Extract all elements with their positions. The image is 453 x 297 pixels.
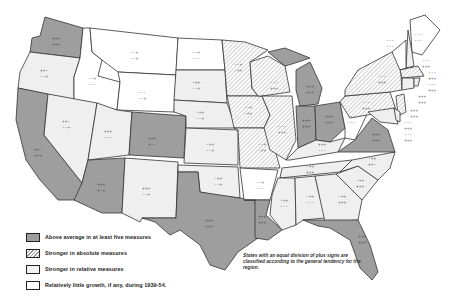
svg-text:-++: -++ <box>356 178 364 183</box>
svg-text:+++: +++ <box>306 84 314 89</box>
svg-text:---: --- <box>428 82 436 87</box>
svg-text:+++: +++ <box>148 136 156 141</box>
svg-text:+++: +++ <box>404 126 412 131</box>
swatch-above-icon <box>26 233 40 242</box>
svg-text:+--: +-- <box>148 142 156 147</box>
svg-text:---: --- <box>378 74 386 79</box>
svg-text:+++: +++ <box>428 76 436 81</box>
legend-label: Stronger in relative measures <box>45 266 124 272</box>
svg-text:+++: +++ <box>418 100 426 105</box>
svg-text:+++: +++ <box>404 138 412 143</box>
svg-text:--+: --+ <box>258 142 266 147</box>
svg-text:++-: ++- <box>40 68 48 73</box>
svg-text:+++: +++ <box>410 114 418 119</box>
svg-text:++-: ++- <box>62 119 70 124</box>
svg-text:---: --- <box>386 44 394 49</box>
svg-text:+++: +++ <box>318 142 326 147</box>
svg-text:---: --- <box>104 135 112 140</box>
svg-text:--+: --+ <box>142 192 150 197</box>
svg-text:-++: -++ <box>280 198 288 203</box>
svg-text:+++: +++ <box>418 94 426 99</box>
state-florida <box>303 220 378 280</box>
svg-text:--+: --+ <box>192 50 200 55</box>
svg-text:--+: --+ <box>88 76 96 81</box>
classification-note: States with an equal division of plus si… <box>243 253 363 271</box>
svg-text:+++: +++ <box>422 64 430 69</box>
svg-text:---: --- <box>347 114 355 119</box>
svg-text:--+: --+ <box>196 116 204 121</box>
svg-text:--+: --+ <box>192 86 200 91</box>
swatch-blank-icon <box>26 281 40 290</box>
svg-text:+++: +++ <box>52 42 60 47</box>
svg-text:+++: +++ <box>205 218 213 223</box>
state-north-dakota <box>176 38 225 70</box>
svg-text:+++: +++ <box>258 220 266 225</box>
svg-text:--+: --+ <box>234 62 242 67</box>
svg-text:+++: +++ <box>302 124 310 129</box>
swatch-hatch-icon <box>26 249 40 258</box>
svg-text:+++: +++ <box>302 118 310 123</box>
svg-text:--+: --+ <box>206 148 214 153</box>
legend-item-relative: Stronger in relative measures <box>26 262 166 276</box>
svg-text:+++: +++ <box>104 129 112 134</box>
legend-label: Stronger in absolute measures <box>45 250 127 256</box>
svg-text:---: --- <box>270 80 278 85</box>
svg-text:+++: +++ <box>358 240 366 245</box>
svg-text:--+: --+ <box>244 105 252 110</box>
svg-text:+-+: +-+ <box>97 188 105 193</box>
state-new-york <box>345 52 402 96</box>
state-south-dakota <box>174 70 227 103</box>
svg-text:-++: -++ <box>338 194 346 199</box>
svg-text:---: --- <box>280 204 288 209</box>
svg-text:---: --- <box>347 120 355 125</box>
svg-text:-++: -++ <box>214 176 222 181</box>
svg-text:--+: --+ <box>130 56 138 61</box>
svg-text:---: --- <box>428 70 436 75</box>
svg-text:+++: +++ <box>372 138 380 143</box>
svg-text:--+: --+ <box>256 180 264 185</box>
legend-label: Relatively little growth, if any, during… <box>45 282 166 288</box>
svg-text:+++: +++ <box>362 106 370 111</box>
svg-text:---: --- <box>306 200 314 205</box>
svg-text:-++: -++ <box>258 148 266 153</box>
legend-label: Above average in at least five measures <box>45 234 151 240</box>
svg-text:-++: -++ <box>244 111 252 116</box>
svg-text:-++: -++ <box>306 164 314 169</box>
svg-text:---: --- <box>404 120 412 125</box>
svg-text:--+: --+ <box>138 96 146 101</box>
svg-text:+++: +++ <box>428 88 436 93</box>
svg-text:+++: +++ <box>378 80 386 85</box>
svg-text:+++: +++ <box>356 184 364 189</box>
state-colorado <box>129 112 186 158</box>
svg-text:---: --- <box>422 58 430 63</box>
svg-text:++-: ++- <box>368 162 376 167</box>
svg-text:+++: +++ <box>410 108 418 113</box>
svg-text:++-: ++- <box>34 147 42 152</box>
svg-text:---: --- <box>138 90 146 95</box>
svg-text:+++: +++ <box>52 36 60 41</box>
state-rhode-island <box>414 78 420 86</box>
svg-text:-++: -++ <box>368 156 376 161</box>
svg-text:---: --- <box>318 148 326 153</box>
svg-text:---: --- <box>414 32 422 37</box>
svg-text:+++: +++ <box>358 234 366 239</box>
svg-text:---: --- <box>386 38 394 43</box>
swatch-dots-icon <box>26 265 40 274</box>
svg-text:-++: -++ <box>196 110 204 115</box>
state-wyoming <box>117 72 176 112</box>
svg-text:+++: +++ <box>372 132 380 137</box>
svg-text:+++: +++ <box>338 200 346 205</box>
svg-text:---: --- <box>88 82 96 87</box>
svg-text:---: --- <box>278 124 286 129</box>
svg-text:+++: +++ <box>34 153 42 158</box>
svg-text:-++: -++ <box>192 80 200 85</box>
svg-text:--+: --+ <box>62 125 70 130</box>
svg-text:+++: +++ <box>142 186 150 191</box>
state-connecticut <box>402 78 414 90</box>
svg-text:---: --- <box>414 38 422 43</box>
svg-text:--+: --+ <box>40 74 48 79</box>
svg-text:--+: --+ <box>214 182 222 187</box>
svg-text:---: --- <box>362 100 370 105</box>
legend-item-above: Above average in at least five measures <box>26 230 166 244</box>
legend-item-absolute: Stronger in absolute measures <box>26 246 166 260</box>
